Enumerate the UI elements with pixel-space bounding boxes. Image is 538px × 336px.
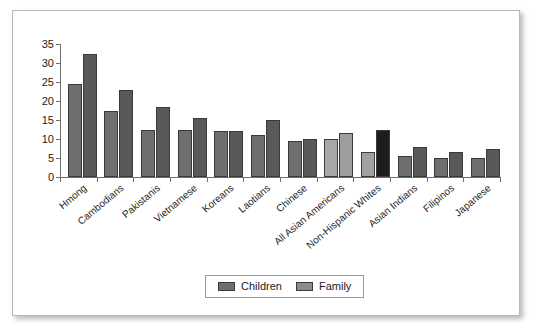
bar-children — [361, 152, 375, 177]
bar-children — [214, 131, 228, 177]
bar-family — [193, 118, 207, 177]
y-tick-mark — [56, 101, 60, 102]
bar-family — [303, 139, 317, 177]
plot-area: 05101520253035 HmongCambodiansPakistanis… — [60, 44, 500, 177]
y-tick-mark — [56, 82, 60, 83]
y-tick-label: 20 — [42, 96, 54, 107]
y-axis-line — [60, 44, 61, 177]
bar-family — [156, 107, 170, 177]
bar-group — [470, 44, 507, 177]
bar-group — [250, 44, 287, 177]
bar-family — [266, 120, 280, 177]
bar-children — [398, 156, 412, 177]
bar-group — [140, 44, 177, 177]
bar-children — [141, 130, 155, 178]
y-tick-label: 10 — [42, 134, 54, 145]
bar-children — [68, 84, 82, 177]
x-tick-mark — [170, 177, 171, 182]
bar-group — [360, 44, 397, 177]
y-tick-mark — [56, 120, 60, 121]
x-tick-mark — [133, 177, 134, 182]
y-tick-mark — [56, 44, 60, 45]
x-tick-mark — [353, 177, 354, 182]
bar-children — [434, 158, 448, 177]
x-tick-mark — [97, 177, 98, 182]
bar-family — [119, 90, 133, 177]
bar-family — [413, 147, 427, 177]
bar-family — [486, 149, 500, 178]
bar-group — [103, 44, 140, 177]
bar-family — [376, 130, 390, 178]
bar-children — [178, 130, 192, 178]
bar-family — [449, 152, 463, 177]
x-tick-mark — [463, 177, 464, 182]
x-axis-label: Laotians — [237, 183, 272, 215]
y-tick-mark — [56, 63, 60, 64]
legend-entry: Family — [296, 281, 351, 292]
y-tick-label: 35 — [42, 39, 54, 50]
x-axis-label: Chinese — [275, 183, 310, 214]
y-tick-label: 30 — [42, 58, 54, 69]
bar-group — [67, 44, 104, 177]
legend-label: Children — [241, 281, 282, 292]
chart-legend: ChildrenFamily — [205, 275, 364, 298]
y-tick-label: 5 — [48, 153, 54, 164]
bar-group — [287, 44, 324, 177]
bar-group — [397, 44, 434, 177]
chart-panel: 05101520253035 HmongCambodiansPakistanis… — [12, 10, 520, 316]
x-axis-label: Filipinos — [421, 183, 456, 214]
bar-group — [323, 44, 360, 177]
legend-entry: Children — [218, 281, 282, 292]
bar-family — [229, 131, 243, 177]
legend-swatch — [218, 282, 235, 291]
y-tick-mark — [56, 139, 60, 140]
x-axis-label: Koreans — [201, 183, 236, 215]
x-tick-mark — [207, 177, 208, 182]
bar-children — [251, 135, 265, 177]
x-tick-mark — [60, 177, 61, 182]
bar-group — [213, 44, 250, 177]
y-tick-label: 25 — [42, 77, 54, 88]
x-tick-mark — [427, 177, 428, 182]
bar-family — [83, 54, 97, 178]
x-tick-mark — [243, 177, 244, 182]
x-tick-mark — [280, 177, 281, 182]
x-axis-label: Japanese — [453, 183, 493, 219]
bar-group — [433, 44, 470, 177]
x-axis-label: Hmong — [58, 183, 89, 211]
bar-children — [471, 158, 485, 177]
y-tick-label: 15 — [42, 115, 54, 126]
x-tick-mark — [317, 177, 318, 182]
y-tick-mark — [56, 158, 60, 159]
x-tick-mark — [500, 177, 501, 182]
x-tick-mark — [390, 177, 391, 182]
y-tick-label: 0 — [48, 172, 54, 183]
legend-swatch — [296, 282, 313, 291]
bar-family — [339, 133, 353, 177]
bar-children — [324, 139, 338, 177]
bar-children — [104, 111, 118, 178]
bar-children — [288, 141, 302, 177]
legend-label: Family — [319, 281, 351, 292]
bar-group — [177, 44, 214, 177]
